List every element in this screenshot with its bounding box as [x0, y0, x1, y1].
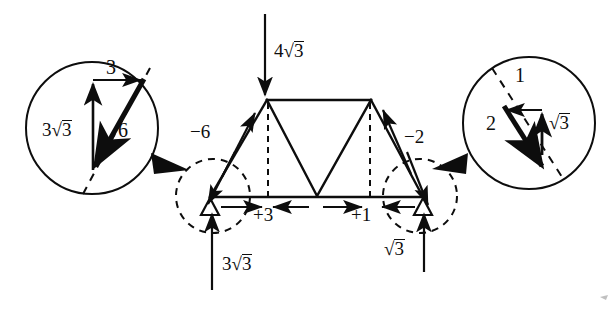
- left-detail-vertical-label: 3√3: [42, 119, 71, 139]
- right-reaction-label: √3: [384, 238, 404, 258]
- right-detail-circle: [432, 57, 595, 189]
- right-diagonal-force-arrows: [383, 110, 428, 205]
- right-diagonal-force-label: −2: [404, 127, 424, 146]
- left-diagonal-force-label: −6: [190, 122, 210, 141]
- truss-structure: [210, 100, 423, 197]
- left-detail-resultant-label: 6: [118, 120, 128, 140]
- right-detail-resultant-label: 2: [486, 113, 496, 133]
- member-inner-right: [317, 100, 371, 196]
- right-detail-horizontal-label: 1: [515, 65, 525, 85]
- bottom-right-force-label: +1: [351, 205, 371, 224]
- right-support-symbol: [414, 198, 432, 215]
- corner-artifact: [600, 295, 608, 300]
- left-reaction-label: 3√3: [222, 253, 251, 273]
- diagram-vector-layer: [0, 0, 615, 312]
- bottom-left-force-label: +3: [253, 205, 273, 224]
- figure-canvas: 4√3 −6 −2 +3 +1 3√3 √3 3 3√3 6 1 2 √3: [0, 0, 615, 312]
- right-detail-vertical-label: √3: [549, 112, 569, 132]
- left-diagonal-force-arrows: [208, 113, 255, 204]
- left-detail-horizontal-label: 3: [106, 57, 116, 77]
- applied-load-label: 4√3: [274, 40, 303, 60]
- member-right-diagonal: [371, 100, 423, 197]
- member-inner-left: [267, 100, 317, 196]
